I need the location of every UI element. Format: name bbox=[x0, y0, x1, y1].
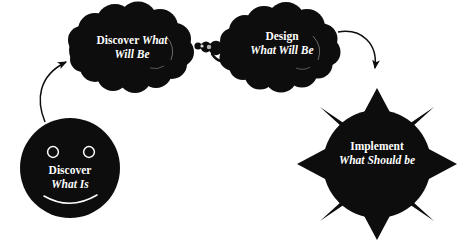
flow-diagram-svg bbox=[0, 0, 462, 244]
arrow-cloud2-to-sun bbox=[338, 31, 375, 68]
node-discover-what-is[interactable] bbox=[20, 118, 120, 218]
node-discover-what-will-be[interactable] bbox=[68, 2, 194, 94]
node-implement-what-should-be[interactable] bbox=[297, 88, 457, 240]
sun-core bbox=[323, 110, 431, 218]
arrow-face-to-cloud1 bbox=[40, 62, 66, 122]
thought-trail-cloud2-to-cloud1 bbox=[194, 41, 223, 61]
node-design-what-will-be[interactable] bbox=[220, 2, 341, 93]
diagram-canvas: Discover What Is Discover What Will Be D… bbox=[0, 0, 462, 244]
